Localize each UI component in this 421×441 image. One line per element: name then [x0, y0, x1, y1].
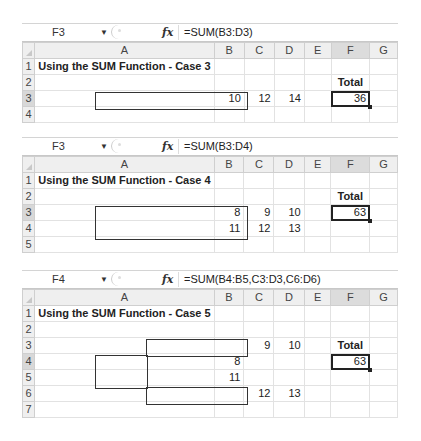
cell-a1-title[interactable]: Using the SUM Function - Case 3 — [35, 59, 214, 75]
column-header-a[interactable]: A — [35, 43, 214, 59]
row-header[interactable]: 2 — [23, 75, 35, 91]
cell[interactable] — [370, 237, 398, 253]
cell[interactable] — [370, 91, 398, 107]
select-all-button[interactable] — [23, 157, 35, 173]
cell-a1-title[interactable]: Using the SUM Function - Case 5 — [35, 306, 214, 322]
cell-a1-title[interactable]: Using the SUM Function - Case 4 — [35, 173, 214, 189]
cell-f3-active[interactable]: 63 — [331, 205, 370, 221]
row-header[interactable]: 3 — [23, 205, 35, 221]
cell[interactable] — [244, 75, 274, 91]
cell[interactable] — [304, 354, 331, 370]
cell[interactable] — [35, 107, 214, 123]
cell-b4[interactable]: 8 — [214, 354, 244, 370]
cell-c3[interactable]: 9 — [244, 205, 274, 221]
cell[interactable] — [244, 189, 274, 205]
cell-f3-active[interactable]: 36 — [331, 91, 370, 107]
cell[interactable] — [331, 402, 370, 418]
cell-d4[interactable]: 13 — [274, 221, 304, 237]
row-header[interactable]: 1 — [23, 173, 35, 189]
cell[interactable] — [274, 370, 304, 386]
column-header-b[interactable]: B — [214, 43, 244, 59]
row-header[interactable]: 4 — [23, 221, 35, 237]
cell[interactable] — [331, 386, 370, 402]
cell[interactable] — [331, 107, 370, 123]
column-header-f[interactable]: F — [331, 43, 370, 59]
column-header-a[interactable]: A — [35, 290, 214, 306]
cell[interactable] — [331, 59, 370, 75]
cell[interactable] — [370, 386, 398, 402]
row-header[interactable]: 3 — [23, 91, 35, 107]
column-header-d[interactable]: D — [274, 43, 304, 59]
cell[interactable] — [244, 322, 274, 338]
column-header-b[interactable]: B — [214, 290, 244, 306]
insert-function-icon[interactable]: fx — [162, 271, 173, 288]
cell[interactable] — [304, 59, 331, 75]
cell[interactable] — [35, 370, 214, 386]
cell[interactable] — [214, 189, 244, 205]
cell[interactable] — [214, 173, 244, 189]
cell[interactable] — [331, 173, 370, 189]
cell[interactable] — [304, 173, 331, 189]
insert-function-icon[interactable]: fx — [162, 24, 173, 41]
cell[interactable] — [370, 205, 398, 221]
cell[interactable] — [274, 59, 304, 75]
cell[interactable] — [274, 306, 304, 322]
insert-function-icon[interactable]: fx — [162, 138, 173, 155]
cell[interactable] — [370, 306, 398, 322]
cell-f4-active[interactable]: 63 — [331, 354, 370, 370]
cell[interactable] — [274, 75, 304, 91]
cell[interactable] — [370, 402, 398, 418]
column-header-c[interactable]: C — [244, 43, 274, 59]
column-header-a[interactable]: A — [35, 157, 214, 173]
cell[interactable] — [304, 386, 331, 402]
name-box-dropdown-icon[interactable]: ▼ — [100, 138, 108, 155]
cell[interactable] — [331, 237, 370, 253]
row-header[interactable]: 6 — [23, 386, 35, 402]
cell[interactable] — [274, 189, 304, 205]
column-header-f[interactable]: F — [331, 290, 370, 306]
cell[interactable] — [331, 322, 370, 338]
cell-f2-total-label[interactable]: Total — [331, 75, 370, 91]
row-header[interactable]: 7 — [23, 402, 35, 418]
cell[interactable] — [244, 354, 274, 370]
cell[interactable] — [35, 237, 214, 253]
cell[interactable] — [370, 322, 398, 338]
cell[interactable] — [244, 107, 274, 123]
column-header-f[interactable]: F — [331, 157, 370, 173]
cell-d6[interactable]: 13 — [274, 386, 304, 402]
cell[interactable] — [304, 402, 331, 418]
cell[interactable] — [35, 322, 214, 338]
cell[interactable] — [331, 221, 370, 237]
cell[interactable] — [244, 59, 274, 75]
cell[interactable] — [35, 338, 214, 354]
cell[interactable] — [214, 306, 244, 322]
cell[interactable] — [331, 370, 370, 386]
column-header-e[interactable]: E — [304, 43, 331, 59]
cell-d3[interactable]: 10 — [274, 205, 304, 221]
cell[interactable] — [304, 370, 331, 386]
cell[interactable] — [35, 221, 214, 237]
cell-b3[interactable]: 10 — [214, 91, 244, 107]
cell[interactable] — [214, 386, 244, 402]
cell-b5[interactable]: 11 — [214, 370, 244, 386]
column-header-e[interactable]: E — [304, 290, 331, 306]
cell[interactable] — [35, 75, 214, 91]
cell[interactable] — [214, 338, 244, 354]
row-header[interactable]: 1 — [23, 306, 35, 322]
name-box-dropdown-icon[interactable]: ▼ — [100, 271, 108, 288]
row-header[interactable]: 3 — [23, 338, 35, 354]
cell[interactable] — [304, 75, 331, 91]
cell[interactable] — [370, 370, 398, 386]
row-header[interactable]: 2 — [23, 189, 35, 205]
cell[interactable] — [370, 59, 398, 75]
cell[interactable] — [370, 189, 398, 205]
row-header[interactable]: 2 — [23, 322, 35, 338]
cell[interactable] — [214, 59, 244, 75]
cell-c4[interactable]: 12 — [244, 221, 274, 237]
cell[interactable] — [370, 75, 398, 91]
cell-c3[interactable]: 9 — [244, 338, 274, 354]
formula-input[interactable]: =SUM(B4:B5,C3:D3,C6:D6) — [184, 271, 321, 288]
cell[interactable] — [304, 189, 331, 205]
cell[interactable] — [304, 322, 331, 338]
name-box[interactable]: F3 — [22, 24, 92, 41]
